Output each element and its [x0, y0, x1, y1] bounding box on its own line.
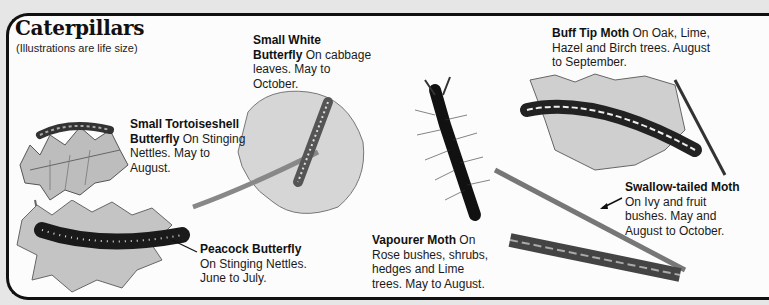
species-desc: On: [456, 233, 475, 247]
species-desc: October.: [253, 77, 298, 91]
species-name: Buff Tip Moth: [552, 26, 629, 40]
species-name: Butterfly: [130, 132, 179, 146]
species-desc: Hazel and Birch trees. August: [552, 41, 710, 55]
species-desc: trees. May to August.: [372, 277, 485, 291]
caption-buff-tip: Buff Tip Moth On Oak, Lime, Hazel and Bi…: [552, 26, 742, 70]
species-desc: August to October.: [625, 224, 724, 238]
species-name: Butterfly: [253, 48, 302, 62]
species-name: Small White: [253, 33, 321, 47]
species-desc: On Oak, Lime,: [629, 26, 710, 40]
species-desc: On cabbage: [302, 48, 371, 62]
species-desc: to September.: [552, 55, 627, 69]
peacock-illustration: [12, 200, 202, 295]
caption-swallow-tailed: Swallow-tailed Moth On Ivy and fruit bus…: [625, 180, 745, 238]
pointer-arrow-icon: [598, 196, 624, 212]
species-desc: bushes. May and: [625, 209, 716, 223]
species-desc: hedges and Lime: [372, 262, 464, 276]
species-name: Swallow-tailed Moth: [625, 180, 740, 194]
species-desc: Rose bushes, shrubs,: [372, 248, 488, 262]
species-name: Vapourer Moth: [372, 233, 456, 247]
page-title: Caterpillars: [15, 16, 144, 40]
species-desc: August.: [130, 161, 171, 175]
species-desc: On Ivy and fruit: [625, 195, 706, 209]
species-desc: leaves. May to: [253, 62, 330, 76]
species-name: Small Tortoiseshell: [130, 117, 239, 131]
species-desc: June to July.: [200, 271, 266, 285]
vapourer-moth-illustration: [405, 75, 495, 225]
caption-small-tortoiseshell: Small Tortoiseshell Butterfly On Stingin…: [130, 117, 270, 175]
species-desc: Nettles. May to: [130, 146, 210, 160]
caption-vapourer: Vapourer Moth On Rose bushes, shrubs, he…: [372, 233, 522, 291]
species-name: Peacock Butterfly: [200, 242, 301, 256]
caption-peacock: Peacock Butterfly On Stinging Nettles. J…: [200, 242, 340, 286]
caption-small-white: Small White Butterfly On cabbage leaves.…: [253, 33, 383, 91]
species-desc: On Stinging Nettles.: [200, 257, 307, 271]
species-desc: On Stinging: [179, 132, 245, 146]
page-subtitle: (Illustrations are life size): [16, 42, 138, 54]
